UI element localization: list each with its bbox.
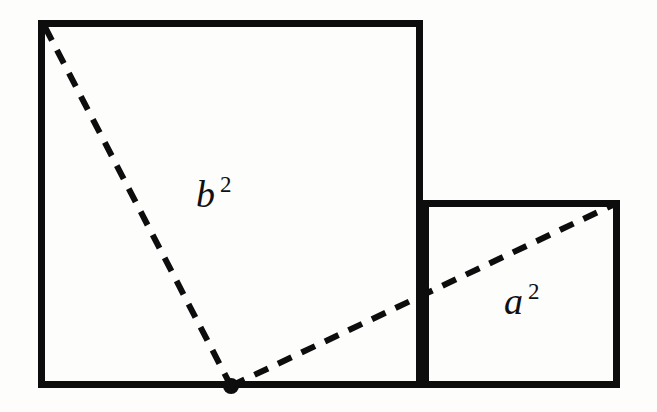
a-squared-base: a	[504, 280, 523, 322]
figure-canvas: b 2 a 2	[0, 0, 657, 412]
b-squared-base: b	[196, 173, 215, 215]
b-squared-exponent: 2	[220, 172, 232, 197]
right-angle-vertex	[223, 378, 239, 394]
a-squared-exponent: 2	[528, 279, 540, 304]
geometry-diagram-svg: b 2 a 2	[0, 0, 657, 412]
